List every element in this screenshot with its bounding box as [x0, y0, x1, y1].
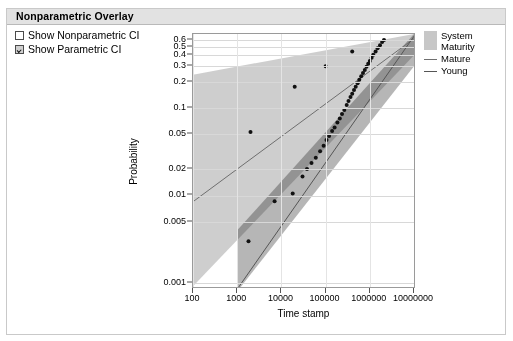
- legend-label-mature: Mature: [441, 53, 471, 64]
- checkbox-nonparametric-ci[interactable]: [15, 31, 24, 40]
- y-tick-label: 0.2: [120, 76, 186, 86]
- y-tick-label: 0.02: [120, 163, 186, 173]
- x-tick-mark: [325, 288, 326, 293]
- x-tick-label: 100: [184, 293, 199, 303]
- x-tick-mark: [192, 288, 193, 293]
- checkbox-label-parametric-ci: Show Parametric CI: [28, 43, 121, 55]
- y-axis-title: Probability: [128, 102, 139, 222]
- data-point: [293, 85, 297, 89]
- gridline-vertical: [326, 34, 327, 287]
- x-tick-label: 1000000: [351, 293, 386, 303]
- data-point: [354, 85, 358, 89]
- legend-entry-mature: Mature: [424, 53, 504, 64]
- legend-label-maturity: Maturity: [441, 41, 475, 52]
- data-point: [338, 116, 342, 120]
- plot-canvas: [193, 34, 414, 287]
- data-point: [330, 129, 334, 133]
- plot-legend: System Maturity Mature Young: [424, 30, 504, 77]
- gridline-horizontal: [193, 134, 414, 135]
- gridline-vertical: [414, 34, 415, 287]
- probability-plot: Probability 0.60.50.40.30.20.10.050.020.…: [120, 28, 420, 313]
- data-point: [318, 149, 322, 153]
- gridline-horizontal: [193, 66, 414, 67]
- legend-label-system: System: [441, 30, 473, 41]
- gridline-vertical: [193, 34, 194, 287]
- legend-label-young: Young: [441, 65, 468, 76]
- legend-entry-young: Young: [424, 65, 504, 76]
- legend-entry-system-maturity: System Maturity: [424, 30, 504, 52]
- data-point: [350, 50, 354, 54]
- gridline-vertical: [237, 34, 238, 287]
- gridline-horizontal: [193, 196, 414, 197]
- y-tick-label: 0.1: [120, 102, 186, 112]
- x-tick-mark: [413, 288, 414, 293]
- data-point: [347, 99, 351, 103]
- data-point: [350, 92, 354, 96]
- gridline-horizontal: [193, 82, 414, 83]
- data-point: [352, 88, 356, 92]
- data-point: [335, 121, 339, 125]
- legend-line-young: [424, 71, 437, 72]
- gridline-horizontal: [193, 47, 414, 48]
- screenshot-root: Nonparametric Overlay Show Nonparametric…: [0, 0, 513, 341]
- gridline-vertical: [281, 34, 282, 287]
- data-point: [340, 112, 344, 116]
- data-point: [247, 239, 251, 243]
- data-point: [273, 199, 277, 203]
- data-point: [314, 156, 318, 160]
- x-tick-mark: [280, 288, 281, 293]
- gridline-horizontal: [193, 169, 414, 170]
- x-tick-label: 10000: [268, 293, 293, 303]
- legend-line-mature: [424, 59, 437, 60]
- x-tick-label: 1000: [226, 293, 246, 303]
- y-tick-label: 0.05: [120, 128, 186, 138]
- x-tick-mark: [369, 288, 370, 293]
- gridline-horizontal: [193, 283, 414, 284]
- checkbox-row-parametric-ci[interactable]: Show Parametric CI: [15, 43, 121, 55]
- plot-axes-area: [192, 33, 415, 288]
- checkbox-parametric-ci[interactable]: [15, 45, 24, 54]
- panel-title: Nonparametric Overlay: [16, 10, 134, 22]
- gridline-vertical: [370, 34, 371, 287]
- data-point: [345, 103, 349, 107]
- gridline-horizontal: [193, 55, 414, 56]
- y-tick-label: 0.3: [120, 60, 186, 70]
- gridline-horizontal: [193, 40, 414, 41]
- gridline-horizontal: [193, 108, 414, 109]
- data-point: [310, 161, 314, 165]
- data-point: [301, 174, 305, 178]
- y-tick-label: 0.001: [120, 277, 186, 287]
- x-tick-label: 10000000: [393, 293, 433, 303]
- x-tick-mark: [236, 288, 237, 293]
- y-tick-label: 0.4: [120, 49, 186, 59]
- data-point: [333, 125, 337, 129]
- legend-swatch-band: [424, 31, 437, 50]
- x-axis-title: Time stamp: [192, 308, 415, 319]
- x-tick-label: 100000: [310, 293, 340, 303]
- y-tick-label: 0.005: [120, 216, 186, 226]
- gridline-horizontal: [193, 222, 414, 223]
- y-tick-label: 0.01: [120, 189, 186, 199]
